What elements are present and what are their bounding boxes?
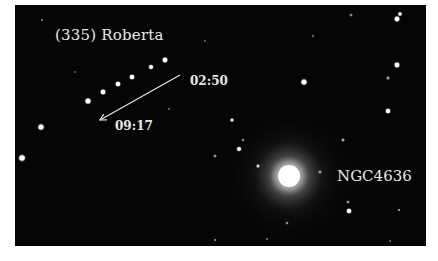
star — [387, 77, 390, 80]
star — [237, 147, 241, 151]
asteroid-label: (335) Roberta — [55, 28, 164, 43]
start-time-label: 02:50 — [190, 75, 228, 87]
star — [398, 209, 400, 211]
galaxy-core — [278, 165, 300, 187]
star — [266, 238, 268, 240]
star — [389, 240, 391, 242]
star — [286, 222, 288, 224]
asteroid-position — [101, 90, 106, 95]
star — [19, 155, 25, 161]
star — [386, 109, 390, 113]
arrow-shaft — [100, 75, 180, 120]
asteroid-position — [163, 58, 168, 63]
star — [242, 139, 244, 141]
asteroid-trail — [84, 56, 168, 105]
star — [350, 14, 353, 17]
asteroid-position — [149, 65, 153, 69]
star — [395, 63, 400, 68]
star — [319, 171, 322, 174]
star — [312, 35, 314, 37]
star — [398, 12, 402, 16]
asteroid-position — [85, 98, 90, 103]
star — [38, 124, 43, 129]
end-time-label: 09:17 — [115, 120, 153, 132]
asteroid-position — [130, 75, 135, 80]
star — [347, 201, 350, 204]
asteroid-position — [116, 82, 121, 87]
star — [395, 17, 400, 22]
star — [301, 79, 306, 84]
star — [204, 40, 206, 42]
motion-arrow-icon — [100, 75, 180, 120]
galaxy-label: NGC4636 — [337, 169, 412, 184]
star — [168, 108, 170, 110]
star — [347, 209, 351, 213]
star — [214, 239, 216, 241]
star — [230, 118, 233, 121]
star — [342, 139, 345, 142]
star — [74, 71, 76, 73]
background-stars — [18, 11, 403, 242]
star — [41, 19, 43, 21]
star — [214, 155, 217, 158]
star — [257, 165, 260, 168]
galaxy-ngc4636 — [228, 115, 350, 237]
page: (335) Roberta 02:50 09:17 NGC4636 — [0, 0, 438, 261]
astronomical-image: (335) Roberta 02:50 09:17 NGC4636 — [15, 5, 426, 246]
